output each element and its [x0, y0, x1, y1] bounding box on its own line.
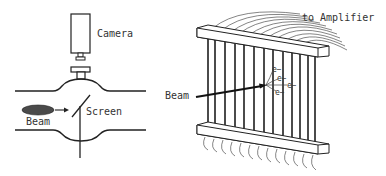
bottom-frame-bar — [197, 122, 329, 154]
beam-label-left: Beam — [26, 116, 50, 127]
diagram-canvas: Camera Beam Screen — [0, 0, 386, 176]
screen-icon — [72, 95, 90, 158]
left-diagram: Camera Beam Screen — [15, 14, 146, 158]
beam-arrow-icon — [55, 108, 69, 113]
beam-bunch-icon — [22, 105, 54, 115]
electron-label-1: e− — [272, 65, 282, 74]
beam-label-right: Beam — [165, 90, 189, 101]
beam-arrow-icon-right — [196, 84, 267, 98]
right-diagram: to Amplifier — [165, 12, 374, 170]
amplifier-label: to Amplifier — [302, 12, 374, 23]
electron-label-4: e− — [275, 88, 285, 97]
electron-label-2: e− — [277, 74, 287, 83]
viewport-flange — [71, 67, 90, 79]
screen-label: Screen — [86, 106, 122, 117]
camera-label: Camera — [97, 28, 133, 39]
camera-icon — [71, 14, 90, 60]
electron-label-3: e− — [287, 81, 297, 90]
